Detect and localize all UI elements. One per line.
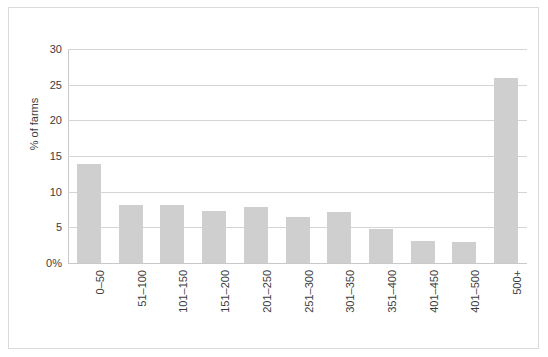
bar-slot [235,49,277,263]
y-axis-tick-label: 20 [6,115,62,126]
bar-slot [318,49,360,263]
bar-series [68,49,527,263]
bar [411,241,435,263]
x-axis-tick-labels: 0–5051–100101–150151–200201–250251–30030… [68,266,527,346]
bar [244,207,268,263]
y-axis-tick-label: 10 [6,186,62,197]
x-axis-tick-label: 0–50 [94,270,106,294]
x-axis-tick-label: 251–300 [303,270,315,313]
bar-slot [110,49,152,263]
bar-slot [360,49,402,263]
x-axis-tick-label: 201–250 [261,270,273,313]
bar [286,217,310,263]
bar [452,242,476,263]
bar-slot [68,49,110,263]
x-axis-tick-label: 351–400 [386,270,398,313]
x-tick-slot: 101–150 [151,266,193,346]
bar-slot [193,49,235,263]
bar [369,229,393,263]
bar [327,212,351,263]
x-tick-slot: 251–300 [277,266,319,346]
bar-slot [151,49,193,263]
bar [202,211,226,263]
x-tick-slot: 51–100 [110,266,152,346]
y-axis-tick-labels: 0%51015202530 [4,49,62,263]
y-axis-tick-label: 25 [6,79,62,90]
chart-figure: % of farms 0%51015202530 0–5051–100101–1… [0,0,548,357]
x-tick-slot: 401–450 [402,266,444,346]
x-tick-slot: 151–200 [193,266,235,346]
x-axis-tick-label: 151–200 [219,270,231,313]
bar [160,205,184,263]
x-tick-slot: 500+ [485,266,527,346]
y-axis-tick-label: 5 [6,222,62,233]
x-tick-slot: 401–500 [444,266,486,346]
y-axis-tick-label: 0% [6,258,62,269]
bar [77,164,101,263]
x-axis-tick-label: 301–350 [344,270,356,313]
y-axis-tick-label: 30 [6,44,62,55]
x-axis-tick-label: 401–450 [428,270,440,313]
x-tick-slot: 201–250 [235,266,277,346]
x-axis-tick-label: 500+ [511,270,523,295]
bar-slot [444,49,486,263]
x-tick-slot: 351–400 [360,266,402,346]
bar-slot [485,49,527,263]
gridline [68,263,527,264]
x-axis-tick-label: 51–100 [136,270,148,307]
x-axis-tick-label: 401–500 [469,270,481,313]
bar [494,78,518,263]
plot-area [68,49,527,263]
x-axis-tick-label: 101–150 [177,270,189,313]
x-tick-slot: 301–350 [318,266,360,346]
x-tick-slot: 0–50 [68,266,110,346]
bar [119,205,143,263]
bar-slot [402,49,444,263]
bar-slot [277,49,319,263]
y-axis-tick-label: 15 [6,151,62,162]
